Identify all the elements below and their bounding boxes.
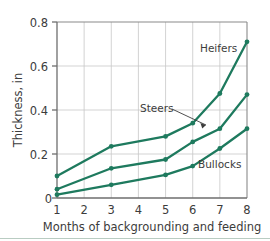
- series-label-steers: Steers: [140, 102, 174, 114]
- y-tick-label-0.2: 0.2: [30, 148, 48, 162]
- y-axis-title: Thickness, in: [11, 73, 25, 149]
- series-label-heifers: Heifers: [200, 42, 237, 54]
- x-tick-label-4: 4: [135, 203, 142, 217]
- y-tick-label-0: 0: [45, 192, 52, 206]
- x-tick-label-7: 7: [216, 203, 223, 217]
- x-tick-label-2: 2: [80, 203, 87, 217]
- series-label-bullocks: Bullocks: [198, 158, 241, 170]
- y-tick-label-0.4: 0.4: [30, 104, 48, 118]
- x-tick-label-6: 6: [189, 203, 196, 217]
- x-axis-title: Months of backgrounding and feeding: [43, 220, 261, 234]
- chart-figure: 0.8 0.6 0.4 0.2 0 1 2 3 4 5 6 7 8 Months…: [0, 0, 270, 241]
- y-tick-label-0.6: 0.6: [30, 60, 48, 74]
- x-tick-label-1: 1: [53, 203, 60, 217]
- x-tick-label-5: 5: [162, 203, 169, 217]
- y-tick-label-0.8: 0.8: [30, 16, 48, 30]
- x-tick-label-8: 8: [243, 203, 250, 217]
- line-chart: 0.8 0.6 0.4 0.2 0 1 2 3 4 5 6 7 8 Months…: [0, 0, 270, 241]
- y-axis-ticks: [52, 22, 57, 198]
- x-tick-label-3: 3: [108, 203, 115, 217]
